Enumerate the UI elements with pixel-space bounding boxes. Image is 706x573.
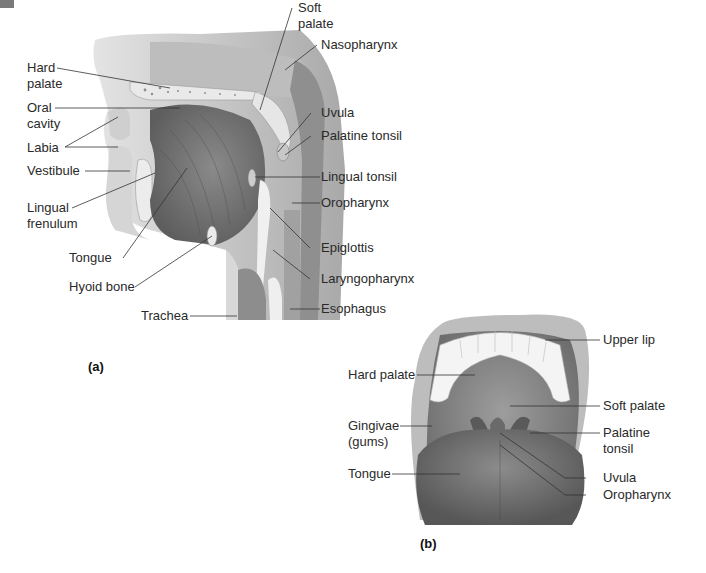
- label-nasopharynx: Nasopharynx: [321, 37, 398, 53]
- label-palatine-tonsil-a: Palatine tonsil: [321, 128, 402, 144]
- panel-a-tag: (a): [88, 359, 104, 374]
- label-uvula-a: Uvula: [321, 105, 354, 121]
- label-laryngopharynx: Laryngopharynx: [321, 271, 414, 287]
- label-gingivae: Gingivae (gums): [348, 418, 399, 450]
- label-esophagus: Esophagus: [321, 301, 386, 317]
- label-soft-palate-a: Soft palate: [298, 0, 333, 32]
- label-oropharynx-a: Oropharynx: [321, 195, 389, 211]
- label-uvula-b: Uvula: [603, 470, 636, 486]
- label-hyoid-bone: Hyoid bone: [69, 279, 135, 295]
- label-trachea: Trachea: [141, 308, 188, 324]
- label-epiglottis: Epiglottis: [321, 240, 374, 256]
- label-hard-palate-a: Hard palate: [27, 60, 62, 92]
- label-oral-cavity: Oral cavity: [27, 100, 60, 132]
- panel-b-tag: (b): [420, 536, 437, 551]
- label-lingual-tonsil: Lingual tonsil: [321, 169, 397, 185]
- label-labia: Labia: [27, 140, 59, 156]
- label-lingual-frenulum: Lingual frenulum: [27, 200, 78, 232]
- label-tongue-b: Tongue: [348, 466, 391, 482]
- label-vestibule: Vestibule: [27, 163, 80, 179]
- label-tongue-a: Tongue: [69, 250, 112, 266]
- label-oropharynx-b: Oropharynx: [603, 487, 671, 503]
- label-hard-palate-b: Hard palate: [348, 367, 415, 383]
- label-upper-lip: Upper lip: [603, 332, 655, 348]
- label-soft-palate-b: Soft palate: [603, 398, 665, 414]
- label-palatine-tonsil-b: Palatine tonsil: [603, 425, 650, 457]
